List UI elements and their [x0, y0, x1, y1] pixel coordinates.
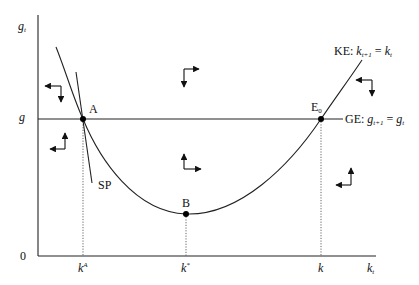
ke-label-lhs-sub: t+1 — [362, 51, 372, 59]
ge-label-prefix: GE: — [345, 112, 367, 126]
point-b-label: B — [182, 197, 190, 209]
arrow-pair-upper-left — [45, 86, 61, 102]
arrow-pair-upper-right — [356, 80, 372, 96]
arrow-pair-lower-middle — [184, 154, 201, 169]
phase-diagram — [0, 0, 419, 285]
origin-label: 0 — [20, 250, 26, 262]
ge-label-rhs-sub: t — [402, 119, 404, 127]
x-tick-kstar: k* — [181, 262, 190, 274]
point-e0 — [318, 116, 324, 122]
ge-label-lhs-sub: t+1 — [373, 119, 383, 127]
point-e0-sub: 0 — [318, 107, 322, 115]
y-axis-label: gt — [18, 20, 26, 34]
ke-label-eq: = — [372, 44, 385, 58]
x-tick-k-base: k — [318, 261, 323, 275]
sp-label: SP — [98, 179, 111, 191]
ke-label-rhs-sub: t — [390, 51, 392, 59]
x-tick-kstar-sup: * — [186, 261, 190, 269]
arrow-pair-lower-left — [50, 133, 65, 149]
x-tick-ka-sup: A — [83, 261, 87, 269]
point-b — [183, 211, 189, 217]
ge-label: GE: gt+1 = gt — [345, 113, 404, 127]
y-axis-label-sub: t — [24, 26, 26, 34]
point-a — [80, 116, 86, 122]
arrow-pair-lower-right — [336, 168, 351, 185]
x-tick-ka: kA — [78, 262, 88, 274]
x-tick-k: k — [318, 262, 323, 274]
point-e0-label: E0 — [311, 101, 322, 115]
ge-label-eq: = — [384, 112, 397, 126]
x-axis-label-sub: t — [372, 268, 374, 276]
point-a-label: A — [89, 103, 98, 115]
sp-line — [76, 72, 92, 183]
x-axis-label: kt — [367, 262, 374, 276]
arrow-pair-upper-middle — [184, 69, 199, 87]
ke-label: KE: kt+1 = kt — [334, 45, 392, 59]
y-tick-g: g — [19, 111, 25, 123]
ke-label-prefix: KE: — [334, 44, 356, 58]
